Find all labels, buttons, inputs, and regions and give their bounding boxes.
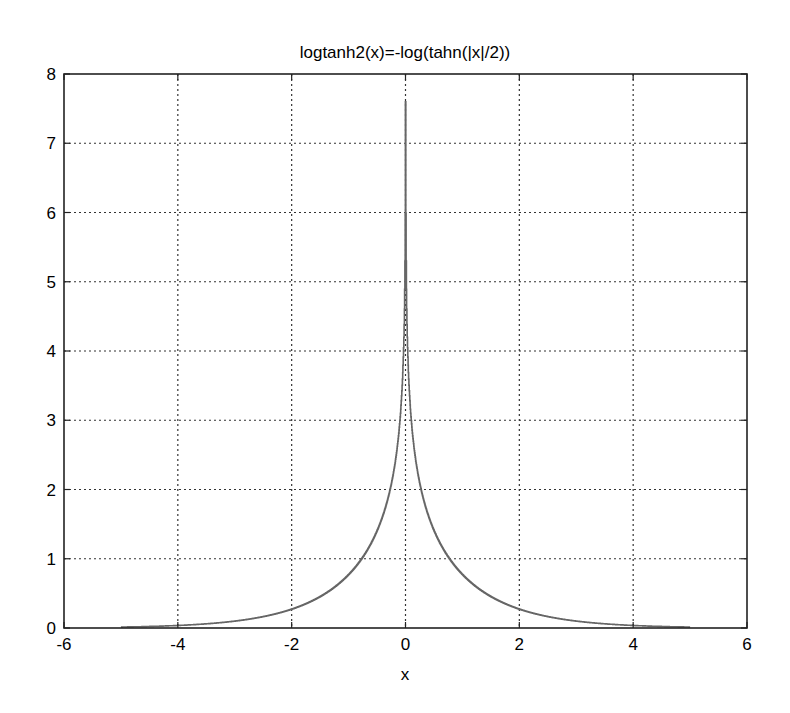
x-tick-label: 2: [515, 635, 524, 654]
y-tick-label: 2: [47, 481, 56, 500]
x-tick-label: 0: [401, 635, 410, 654]
y-tick-label: 4: [47, 342, 56, 361]
chart: logtanh2(x)=-log(tahn(|x|/2)) -6-4-20246…: [0, 0, 790, 713]
y-tick-label: 6: [47, 204, 56, 223]
y-tick-label: 0: [47, 619, 56, 638]
x-tick-label: -4: [170, 635, 185, 654]
y-tick-label: 7: [47, 134, 56, 153]
x-tick-label: 6: [742, 635, 751, 654]
y-tick-label: 3: [47, 411, 56, 430]
chart-title: logtanh2(x)=-log(tahn(|x|/2)): [300, 43, 511, 62]
x-tick-label: -6: [56, 635, 71, 654]
x-axis-ticks: -6-4-20246: [56, 74, 751, 654]
x-axis-label: x: [401, 665, 410, 684]
x-tick-label: -2: [284, 635, 299, 654]
y-tick-label: 8: [47, 65, 56, 84]
y-tick-label: 5: [47, 273, 56, 292]
y-axis-ticks: 012345678: [47, 65, 747, 638]
y-tick-label: 1: [47, 550, 56, 569]
x-tick-label: 4: [628, 635, 637, 654]
